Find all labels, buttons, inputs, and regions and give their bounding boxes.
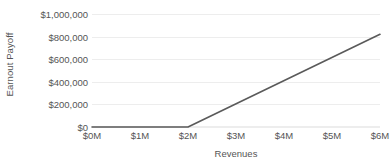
- x-axis-title: Revenues: [92, 148, 380, 159]
- y-axis-tick-label: $1,000,000: [16, 9, 88, 20]
- series-polyline: [92, 34, 380, 127]
- y-axis-tick-labels: $0$200,000$400,000$600,000$800,000$1,000…: [16, 0, 88, 168]
- y-axis-tick-label: $600,000: [16, 54, 88, 65]
- y-axis-tick-label: $800,000: [16, 31, 88, 42]
- plot-area: [92, 14, 380, 127]
- x-axis-tick-labels: $0M$1M$2M$3M$4M$5M$6M: [92, 130, 380, 144]
- x-axis-tick-label: $2M: [179, 130, 197, 141]
- series-line-earnout-payoff: [92, 14, 380, 127]
- y-axis-tick-label: $400,000: [16, 76, 88, 87]
- y-axis-tick-label: $0: [16, 122, 88, 133]
- x-axis-tick-label: $5M: [323, 130, 341, 141]
- x-axis-tick-label: $1M: [131, 130, 149, 141]
- x-axis-tick-label: $0M: [83, 130, 101, 141]
- y-axis-tick-label: $200,000: [16, 99, 88, 110]
- x-axis-title-label: Revenues: [215, 148, 258, 159]
- x-axis-tick-label: $6M: [371, 130, 389, 141]
- earnout-payoff-chart: Earnout Payoff $0$200,000$400,000$600,00…: [0, 0, 392, 168]
- x-axis-tick-label: $4M: [275, 130, 293, 141]
- y-axis-title-label: Earnout Payoff: [4, 32, 15, 96]
- x-axis-tick-label: $3M: [227, 130, 245, 141]
